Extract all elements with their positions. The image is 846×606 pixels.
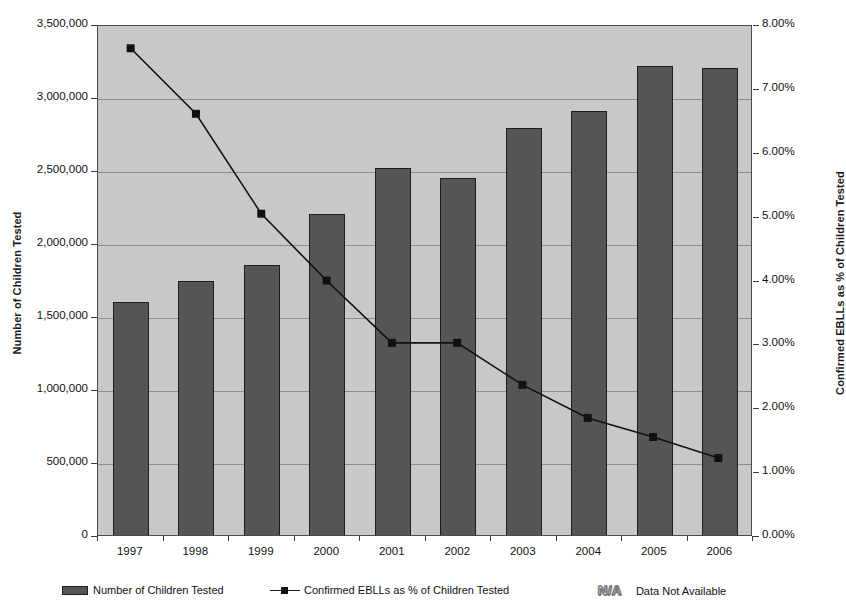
x-axis-tick-mark xyxy=(556,536,557,541)
plot-area xyxy=(97,25,752,536)
legend-label-data-not-available: Data Not Available xyxy=(636,585,726,597)
x-axis-tick-label-2005: 2005 xyxy=(641,545,667,557)
y-axis-right-tick-label: 3.00% xyxy=(762,336,832,348)
bar-2005 xyxy=(637,66,673,536)
x-axis-tick-label-2003: 2003 xyxy=(510,545,536,557)
y-axis-right-tick-label: 7.00% xyxy=(762,81,832,93)
y-axis-right-tick-mark xyxy=(753,25,759,26)
line-marker-1998 xyxy=(192,110,200,118)
line-marker-1999 xyxy=(257,210,265,218)
y-axis-right-tick-mark xyxy=(753,408,759,409)
y-axis-right-tick-label: 5.00% xyxy=(762,209,832,221)
bar-1998 xyxy=(178,281,214,536)
x-axis-tick-label-1997: 1997 xyxy=(117,545,143,557)
x-axis-tick-mark xyxy=(97,536,98,541)
y-axis-left-ticks: 0500,0001,000,0001,500,0002,000,0002,500… xyxy=(0,0,88,606)
x-axis-tick-label-1999: 1999 xyxy=(248,545,274,557)
chart-legend: Number of Children Tested Confirmed EBLL… xyxy=(0,578,842,604)
y-axis-right-tick-mark xyxy=(753,536,759,537)
y-axis-right-tick-label: 0.00% xyxy=(762,528,832,540)
y-axis-right-tick-mark xyxy=(753,217,759,218)
x-axis-tick-mark xyxy=(490,536,491,541)
y-axis-left-tick-label: 2,000,000 xyxy=(4,236,88,248)
bar-2003 xyxy=(506,128,542,536)
y-axis-left-tick-mark xyxy=(91,317,97,318)
bar-2001 xyxy=(375,168,411,536)
y-axis-right-ticks: 0.00%1.00%2.00%3.00%4.00%5.00%6.00%7.00%… xyxy=(762,0,842,606)
y-axis-left-tick-mark xyxy=(91,390,97,391)
y-axis-right-tick-mark xyxy=(753,89,759,90)
bar-2002 xyxy=(440,178,476,536)
x-axis-tick-label-1998: 1998 xyxy=(182,545,208,557)
y-axis-left-tick-mark xyxy=(91,25,97,26)
y-axis-right-tick-mark xyxy=(753,472,759,473)
y-axis-left-tick-mark xyxy=(91,98,97,99)
x-axis-tick-mark xyxy=(425,536,426,541)
na-abbreviation-icon: N/A xyxy=(598,583,622,598)
x-axis-tick-mark xyxy=(687,536,688,541)
y-axis-left-tick-label: 3,000,000 xyxy=(4,90,88,102)
y-axis-right-tick-label: 4.00% xyxy=(762,273,832,285)
y-axis-left-tick-mark xyxy=(91,244,97,245)
legend-item-eblls-percent: Confirmed EBLLs as % of Children Tested xyxy=(270,584,509,596)
x-axis-tick-label-2004: 2004 xyxy=(575,545,601,557)
legend-item-children-tested: Number of Children Tested xyxy=(62,584,224,596)
y-axis-right-tick-label: 8.00% xyxy=(762,17,832,29)
y-axis-left-tick-mark xyxy=(91,536,97,537)
x-axis-tick-label-2006: 2006 xyxy=(706,545,732,557)
y-axis-right-tick-mark xyxy=(753,281,759,282)
line-path xyxy=(131,48,719,458)
bar-2000 xyxy=(309,214,345,536)
legend-label-children-tested: Number of Children Tested xyxy=(93,584,224,596)
y-axis-left-tick-mark xyxy=(91,463,97,464)
y-axis-right-tick-label: 2.00% xyxy=(762,400,832,412)
x-axis-tick-mark xyxy=(294,536,295,541)
x-axis-tick-label-2001: 2001 xyxy=(379,545,405,557)
legend-item-data-not-available: N/A Data Not Available xyxy=(598,583,726,598)
bar-2006 xyxy=(702,68,738,536)
x-axis-tick-label-2000: 2000 xyxy=(313,545,339,557)
bar-2004 xyxy=(571,111,607,536)
y-axis-left-tick-label: 2,500,000 xyxy=(4,163,88,175)
y-axis-left-tick-label: 1,500,000 xyxy=(4,309,88,321)
x-axis-tick-mark xyxy=(163,536,164,541)
line-marker-1997 xyxy=(127,44,135,52)
bar-1999 xyxy=(244,265,280,536)
y-axis-left-tick-label: 500,000 xyxy=(4,455,88,467)
x-axis-tick-label-2002: 2002 xyxy=(444,545,470,557)
x-axis-tick-mark xyxy=(228,536,229,541)
legend-label-eblls-percent: Confirmed EBLLs as % of Children Tested xyxy=(304,584,509,596)
y-axis-left-tick-mark xyxy=(91,171,97,172)
x-axis: 1997199819992000200120022003200420052006 xyxy=(97,536,752,566)
bar-swatch-icon xyxy=(62,586,88,595)
x-axis-tick-mark xyxy=(621,536,622,541)
line-marker-icon xyxy=(270,585,300,595)
bar-1997 xyxy=(113,302,149,536)
y-axis-right-tick-mark xyxy=(753,344,759,345)
y-axis-left-tick-label: 0 xyxy=(4,528,88,540)
y-axis-left-tick-label: 1,000,000 xyxy=(4,382,88,394)
y-axis-right-tick-mark xyxy=(753,153,759,154)
y-axis-left-tick-label: 3,500,000 xyxy=(4,17,88,29)
y-axis-right-tick-label: 6.00% xyxy=(762,145,832,157)
y-axis-right-tick-label: 1.00% xyxy=(762,464,832,476)
x-axis-tick-mark xyxy=(359,536,360,541)
